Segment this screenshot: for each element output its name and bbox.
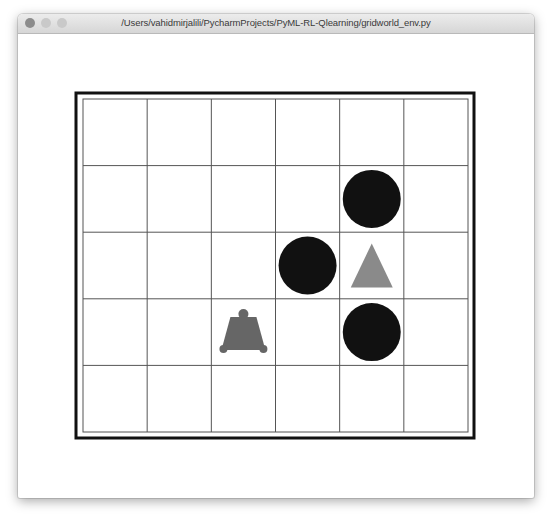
goal-triangle-icon [351,244,393,288]
grid-objects [219,170,400,361]
agent-icon [219,309,267,353]
trap-circle-icon [343,170,401,228]
trap-circle-icon [279,237,337,295]
gridworld-canvas [0,0,553,515]
grid-lines [83,99,468,432]
trap-circle-icon [343,303,401,361]
